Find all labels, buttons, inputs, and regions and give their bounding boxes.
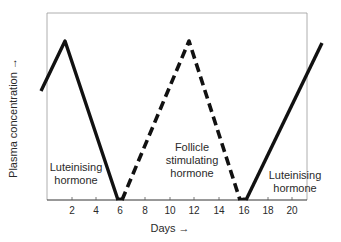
- x-tick-label: 10: [164, 205, 175, 216]
- x-tick-label: 4: [93, 205, 99, 216]
- x-axis-label: Days →: [150, 222, 189, 234]
- y-axis-label: Plasma concentration →: [7, 58, 19, 178]
- x-tick-label: 18: [262, 205, 273, 216]
- x-tick-label: 12: [188, 205, 199, 216]
- annotation-lh-left: Luteinising hormone: [48, 161, 104, 187]
- x-tick-label: 8: [142, 205, 148, 216]
- x-tick-label: 20: [286, 205, 297, 216]
- x-tick-label: 16: [238, 205, 249, 216]
- x-tick-label: 6: [117, 205, 123, 216]
- annotation-lh-right: Luteinising hormone: [267, 169, 323, 195]
- annotation-fsh: Follicle stimulating hormone: [160, 141, 224, 180]
- x-tick-label: 2: [69, 205, 75, 216]
- x-tick-label: 14: [213, 205, 224, 216]
